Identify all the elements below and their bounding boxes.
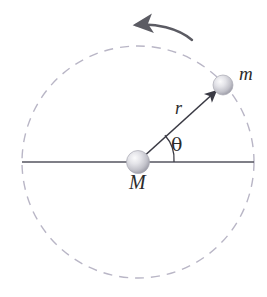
rotation-direction-arrow: [136, 25, 192, 40]
orbit-diagram: M m r θ: [0, 0, 267, 297]
diagram-canvas: [0, 0, 267, 297]
radius-label: r: [175, 99, 182, 117]
orbiting-mass-label: m: [239, 64, 253, 83]
orbiting-mass-sphere: [213, 75, 233, 95]
angle-label: θ: [171, 135, 182, 154]
central-mass-label: M: [129, 172, 146, 192]
